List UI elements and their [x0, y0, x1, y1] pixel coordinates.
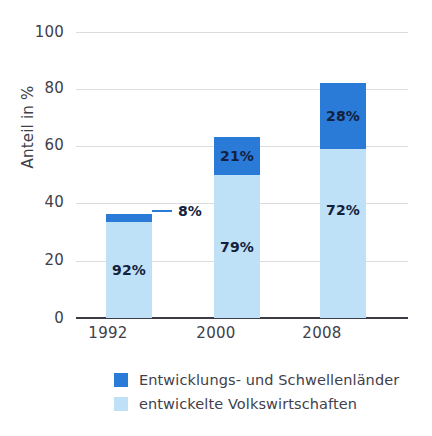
bar-label-developed-1992: 92% — [112, 262, 146, 278]
legend-swatch-icon-developed — [114, 397, 128, 411]
bar-group-2008[interactable]: 72% 28% — [320, 83, 366, 318]
legend-item-developing[interactable]: Entwicklungs- und Schwellenländer — [114, 368, 399, 392]
gridline-100 — [76, 32, 408, 33]
x-tick-label-2000: 2000 — [161, 324, 271, 342]
bar-segment-developing-2000[interactable]: 21% — [214, 137, 260, 175]
legend: Entwicklungs- und Schwellenländer entwic… — [114, 368, 399, 416]
bar-segment-developed-2008[interactable]: 72% — [320, 149, 366, 318]
chart-container: Anteil in % 100 80 60 40 20 0 92% 79% — [0, 0, 432, 436]
y-axis-title: Anteil in % — [19, 57, 37, 197]
bar-segment-developing-1992[interactable] — [106, 214, 152, 222]
x-tick-label-2008: 2008 — [267, 324, 377, 342]
plot-area: 92% 79% 21% 72% 28% — [76, 32, 408, 318]
y-tick-label-60: 60 — [18, 138, 64, 153]
bar-label-developing-2008: 28% — [326, 108, 360, 124]
callout-leader-line-8-percent — [152, 210, 172, 212]
y-tick-label-40: 40 — [18, 195, 64, 210]
legend-swatch-icon-developing — [114, 373, 128, 387]
y-tick-label-20: 20 — [18, 253, 64, 268]
bar-label-developed-2000: 79% — [220, 239, 254, 255]
y-tick-label-100: 100 — [18, 25, 64, 40]
x-tick-label-1992: 1992 — [53, 324, 163, 342]
bar-group-2000[interactable]: 79% 21% — [214, 137, 260, 318]
bar-segment-developed-1992[interactable]: 92% — [106, 222, 152, 318]
legend-label-developed: entwickelte Volkswirtschaften — [139, 396, 357, 412]
legend-item-developed[interactable]: entwickelte Volkswirtschaften — [114, 392, 399, 416]
callout-label-developing-1992: 8% — [178, 203, 202, 219]
bar-label-developed-2008: 72% — [326, 202, 360, 218]
legend-label-developing: Entwicklungs- und Schwellenländer — [139, 372, 399, 388]
bar-segment-developed-2000[interactable]: 79% — [214, 175, 260, 318]
bar-segment-developing-2008[interactable]: 28% — [320, 83, 366, 149]
bar-group-1992[interactable]: 92% — [106, 214, 152, 318]
bar-label-developing-2000: 21% — [220, 148, 254, 164]
y-tick-label-80: 80 — [18, 81, 64, 96]
